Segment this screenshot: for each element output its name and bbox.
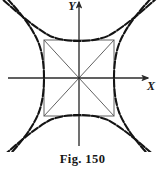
figure-container: X Y Fig. 150 bbox=[0, 0, 165, 172]
axis-labels: X Y bbox=[68, 0, 156, 93]
figure-caption: Fig. 150 bbox=[0, 152, 165, 167]
x-axis-label: X bbox=[146, 79, 156, 93]
hyperbola-plot: X Y bbox=[0, 0, 165, 152]
hyperbola-branch-left bbox=[1, 0, 44, 152]
hyperbola-curves bbox=[0, 0, 165, 152]
y-axis-label: Y bbox=[68, 0, 77, 13]
hyperbola-branch-right bbox=[114, 0, 157, 152]
